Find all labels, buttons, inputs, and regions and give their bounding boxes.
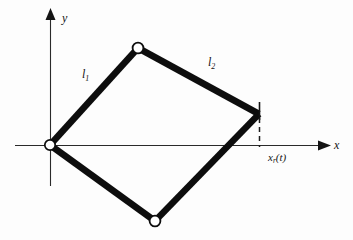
joint-top-circle xyxy=(133,43,144,54)
x-axis-label: x xyxy=(334,139,339,151)
link-4-bar xyxy=(50,145,155,221)
link-2-bar xyxy=(138,48,259,114)
diagram-canvas xyxy=(0,0,353,240)
y-axis-label: y xyxy=(62,12,67,24)
link-1-bar xyxy=(50,48,138,145)
joint-origin-circle xyxy=(45,140,55,150)
link-3-bar xyxy=(155,114,259,221)
x-axis-arrowhead xyxy=(318,141,331,151)
joint-bottom-circle xyxy=(150,216,161,227)
position-label-argument: (t) xyxy=(276,151,286,163)
link-1-label: l1 xyxy=(82,68,89,82)
link-1-label-subscript: 1 xyxy=(85,74,89,83)
link-2-label: l2 xyxy=(208,56,215,70)
kinematic-diagram-figure: y x l1 l2 xr(t) xyxy=(0,0,353,240)
end-effector-position-label: xr(t) xyxy=(268,152,286,166)
link-2-label-subscript: 2 xyxy=(211,62,215,71)
y-axis-arrowhead xyxy=(46,8,56,20)
